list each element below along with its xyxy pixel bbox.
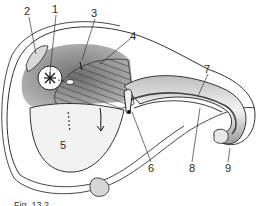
label-8: 8 (189, 163, 195, 174)
chamber-5 (30, 104, 124, 173)
label-2: 2 (24, 6, 30, 17)
label-7: 7 (204, 64, 210, 75)
label-4: 4 (130, 31, 136, 42)
figure-caption: Fig. 13.2 (14, 200, 49, 206)
label-5: 5 (60, 140, 66, 151)
tip-9 (214, 129, 228, 143)
junction-6 (124, 89, 132, 113)
label-3: 3 (91, 8, 97, 19)
label-6: 6 (148, 163, 154, 174)
label-9: 9 (225, 163, 231, 174)
label-1: 1 (52, 4, 58, 15)
bottom-knob (90, 178, 109, 196)
